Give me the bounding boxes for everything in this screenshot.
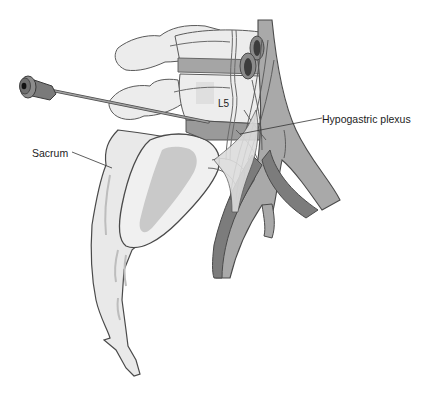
hypogastric-plexus-block-illustration (0, 0, 433, 393)
label-l5: L5 (218, 99, 229, 109)
label-hypogastric-plexus: Hypogastric plexus (322, 114, 411, 125)
needle-hub (20, 76, 57, 100)
label-sacrum: Sacrum (32, 148, 68, 159)
